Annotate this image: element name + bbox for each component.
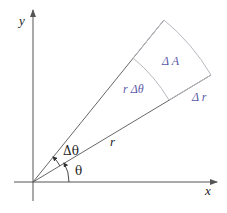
upper-edge <box>133 20 164 58</box>
delta-a-label: Δ A <box>161 54 180 68</box>
delta-theta-label: Δθ <box>63 144 79 158</box>
r-delta-theta-label: r Δθ <box>123 82 144 96</box>
r-label: r <box>110 134 116 149</box>
x-axis-label: x <box>204 183 211 198</box>
y-axis-label: y <box>17 13 25 28</box>
polar-area-diagram: y x θ Δθ r r Δθ Δ A Δ r <box>0 0 227 213</box>
delta-r-label: Δ r <box>191 90 207 104</box>
theta-label: θ <box>75 164 82 178</box>
delta-theta-arc <box>53 157 60 166</box>
theta-arc <box>64 163 69 182</box>
